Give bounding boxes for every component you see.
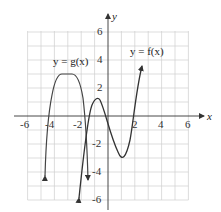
x-tick: -6 <box>20 118 30 130</box>
y-tick: 6 <box>97 25 103 37</box>
y-tick: -4 <box>92 165 102 177</box>
x-tick: -4 <box>45 118 55 130</box>
x-tick: 4 <box>158 118 164 130</box>
y-tick: 4 <box>97 53 103 65</box>
y-tick-labels: 6 4 2 -2 -4 -6 <box>92 25 103 205</box>
axes <box>14 14 204 210</box>
f-label: y = f(x) <box>130 45 164 58</box>
y-axis-label: y <box>111 10 117 22</box>
g-label: y = g(x) <box>53 55 89 68</box>
x-axis-label: x <box>206 110 212 122</box>
x-tick-labels: -6 -4 -2 2 4 6 <box>20 118 191 130</box>
x-tick: -2 <box>73 118 82 130</box>
graph: x y -6 -4 -2 2 4 6 6 4 2 -2 -4 -6 y = g(… <box>0 0 221 212</box>
y-tick: -2 <box>92 137 101 149</box>
y-tick: -6 <box>92 193 102 205</box>
x-tick: 6 <box>185 118 191 130</box>
y-tick: 2 <box>97 81 103 93</box>
